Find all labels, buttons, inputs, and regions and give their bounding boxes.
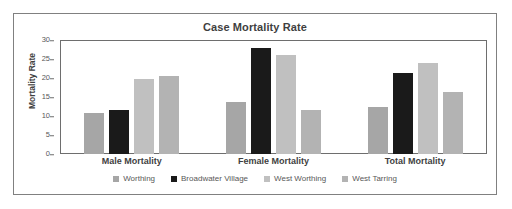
legend-label: West Tarring xyxy=(352,174,397,183)
y-axis-tick-mark xyxy=(50,97,54,98)
y-axis-tick-mark xyxy=(50,135,54,136)
x-axis-label-2: Female Mortality xyxy=(238,156,309,166)
y-axis-tick-mark xyxy=(50,116,54,117)
bar[interactable] xyxy=(84,113,104,154)
bar[interactable] xyxy=(276,55,296,154)
bar[interactable] xyxy=(251,48,271,154)
y-axis-tick-10: 10 xyxy=(42,112,50,120)
bar-group xyxy=(61,41,203,154)
legend-swatch-icon xyxy=(342,176,348,182)
bar-group xyxy=(203,41,345,154)
legend-item[interactable]: West Tarring xyxy=(342,174,397,183)
legend-swatch-icon xyxy=(264,176,270,182)
y-axis-tick-30: 30 xyxy=(42,36,50,44)
bar-group xyxy=(344,41,486,154)
bar[interactable] xyxy=(134,79,154,154)
chart-title: Case Mortality Rate xyxy=(14,21,496,33)
y-axis-tick-0: 0 xyxy=(46,150,50,158)
legend-item[interactable]: West Worthing xyxy=(264,174,326,183)
bars-layer xyxy=(61,41,486,154)
bar[interactable] xyxy=(159,76,179,154)
y-axis-tick-labels: 051015202530 xyxy=(24,40,54,154)
x-axis-label-1: Male Mortality xyxy=(102,156,162,166)
legend-label: West Worthing xyxy=(274,174,326,183)
bar[interactable] xyxy=(368,107,388,154)
chart-container: Case Mortality Rate Mortality Rate 05101… xyxy=(13,13,497,195)
legend-label: Worthing xyxy=(123,174,155,183)
y-axis-tick-20: 20 xyxy=(42,74,50,82)
bar[interactable] xyxy=(109,110,129,154)
bar[interactable] xyxy=(226,102,246,154)
y-axis-tick-25: 25 xyxy=(42,55,50,63)
legend-label: Broadwater Village xyxy=(181,174,248,183)
bar[interactable] xyxy=(301,110,321,154)
x-axis-label-3: Total Mortality xyxy=(385,156,446,166)
chart-legend: WorthingBroadwater VillageWest WorthingW… xyxy=(14,174,496,183)
legend-swatch-icon xyxy=(171,176,177,182)
bar[interactable] xyxy=(393,73,413,154)
legend-swatch-icon xyxy=(113,176,119,182)
bar[interactable] xyxy=(443,92,463,154)
y-axis-tick-mark xyxy=(50,78,54,79)
y-axis-tick-15: 15 xyxy=(42,93,50,101)
y-axis-tick-5: 5 xyxy=(46,131,50,139)
legend-item[interactable]: Broadwater Village xyxy=(171,174,248,183)
y-axis-tick-mark xyxy=(50,40,54,41)
bar[interactable] xyxy=(418,63,438,154)
y-axis-tick-mark xyxy=(50,154,54,155)
y-axis-tick-mark xyxy=(50,59,54,60)
legend-item[interactable]: Worthing xyxy=(113,174,155,183)
x-axis-tick-labels: Male MortalityFemale MortalityTotal Mort… xyxy=(61,156,486,172)
